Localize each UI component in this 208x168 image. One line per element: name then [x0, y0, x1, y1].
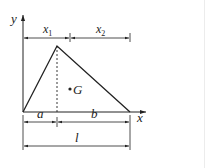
- triangle-centroid-diagram: y x G x1 x2 a b l: [0, 0, 208, 168]
- b-label: b: [91, 106, 98, 121]
- x2-label: x2: [95, 22, 105, 38]
- y-axis-label: y: [9, 11, 17, 26]
- triangle-outline: [23, 46, 130, 112]
- a-label: a: [37, 106, 44, 121]
- centroid-label: G: [73, 82, 83, 97]
- x1-label: x1: [42, 22, 52, 38]
- l-label: l: [75, 130, 79, 145]
- centroid-dot: [68, 87, 71, 90]
- x-axis-label: x: [136, 110, 143, 125]
